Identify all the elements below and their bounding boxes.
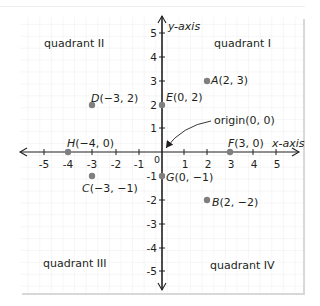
- y-axis-title: y-axis: [167, 20, 200, 33]
- point-h-label: H(−4, 0): [67, 137, 114, 150]
- x-tick-label: 4: [251, 158, 258, 170]
- quadrant-3-label: quadrant III: [43, 257, 106, 270]
- x-tick-label: -3: [87, 158, 97, 170]
- y-tick-label: 1: [150, 122, 157, 134]
- point-a-label: A(2, 3): [210, 74, 248, 87]
- y-tick-label: -4: [147, 242, 158, 254]
- x-tick-label: 5: [274, 158, 281, 170]
- x-tick-label: -5: [39, 158, 49, 170]
- y-tick-label: 5: [150, 27, 157, 39]
- origin-label: origin(0, 0): [214, 114, 275, 127]
- x-tick-label: 1: [182, 158, 189, 170]
- x-tick-label: 3: [228, 158, 235, 170]
- x-tick-label: -1: [134, 158, 144, 170]
- x-tick-label: -4: [63, 158, 74, 170]
- quadrant-2-label: quadrant II: [44, 37, 104, 50]
- point-a-dot: [204, 78, 210, 84]
- x-tick-label: -2: [111, 158, 121, 170]
- point-c-dot: [89, 173, 95, 179]
- point-b-dot: [204, 197, 210, 203]
- x-axis-title: x-axis: [271, 137, 305, 150]
- coordinate-plane: -5 -4 -3 -2 -1 1 2 3 4 5 0 5 4 3 2 1 -1 …: [0, 0, 320, 306]
- point-c-label: C(−3, −1): [82, 182, 138, 195]
- x-tick-label: 2: [205, 158, 212, 170]
- y-tick-label: -3: [147, 218, 157, 230]
- point-e-label: E(0, 2): [166, 91, 203, 104]
- y-tick-label: 2: [150, 99, 157, 111]
- quadrant-4-label: quadrant IV: [210, 259, 275, 272]
- origin-tick-label: 0: [154, 154, 160, 165]
- y-tick-label: -5: [147, 265, 157, 277]
- point-g-dot: [159, 173, 165, 179]
- y-tick-label: -2: [147, 194, 157, 206]
- point-e-dot: [159, 102, 165, 108]
- point-d-label: D(−3, 2): [91, 92, 138, 105]
- quadrant-1-label: quadrant I: [214, 37, 271, 50]
- point-f-label: F(3, 0): [228, 137, 264, 150]
- point-g-label: G(0, −1): [166, 171, 213, 184]
- y-tick-label: -1: [147, 170, 157, 182]
- point-b-label: B(2, −2): [212, 196, 258, 209]
- y-tick-label: 4: [150, 51, 157, 63]
- y-tick-label: 3: [150, 75, 157, 87]
